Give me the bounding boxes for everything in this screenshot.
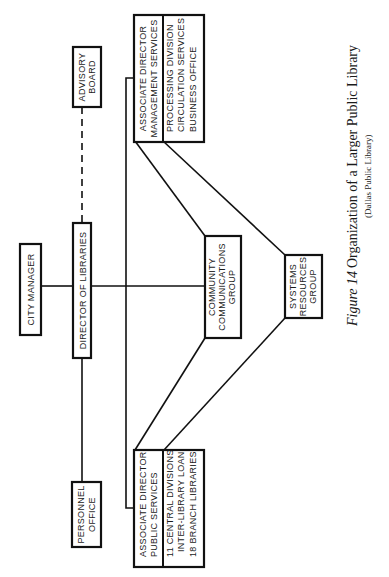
advisory-board-line-1: ADVISORY — [77, 53, 87, 102]
node-systems-resources: SYSTEMS RESOURCES GROUP — [285, 255, 322, 318]
personnel-office-line-2: OFFICE — [87, 497, 97, 532]
public-unit-3: 18 BRANCH LIBRARIES — [188, 451, 198, 557]
node-associate-director-public: ASSOCIATE DIRECTOR PUBLIC SERVICES 11 CE… — [134, 449, 204, 567]
node-community-communications: COMMUNITY COMMUNICATIONS GROUP — [205, 236, 241, 338]
node-advisory-board: ADVISORY BOARD — [73, 47, 101, 107]
edge-trunk-associates — [126, 78, 134, 508]
figure-title: Organization of a Larger Public Library — [345, 45, 360, 268]
public-unit-1: 11 CENTRAL DIVISIONS — [165, 449, 175, 557]
figure-label: Figure 14 — [345, 271, 360, 327]
edge-management-community — [135, 141, 205, 236]
management-title-line-2: MANAGEMENT SERVICES — [149, 20, 159, 138]
personnel-office-line-1: PERSONNEL — [76, 485, 86, 543]
management-unit-1: PROCESSING DIVISION — [165, 24, 175, 132]
node-associate-director-management: ASSOCIATE DIRECTOR MANAGEMENT SERVICES P… — [134, 15, 204, 142]
community-line-1: COMMUNITY — [207, 258, 217, 316]
management-title-line-1: ASSOCIATE DIRECTOR — [138, 26, 148, 132]
node-personnel-office: PERSONNEL OFFICE — [72, 482, 101, 547]
community-line-3: GROUP — [227, 270, 237, 305]
edge-public-community — [135, 338, 205, 450]
systems-line-3: GROUP — [308, 269, 318, 304]
figure-subtitle: (Dallas Public Library) — [363, 135, 373, 218]
advisory-board-line-2: BOARD — [87, 60, 97, 94]
management-unit-2: CIRCULATION SERVICES — [176, 18, 186, 132]
director-label: DIRECTOR OF LIBRARIES — [78, 232, 88, 350]
city-manager-label: CITY MANAGER — [26, 253, 36, 325]
systems-line-1: SYSTEMS — [288, 264, 298, 309]
systems-line-2: RESOURCES — [298, 257, 308, 317]
org-chart: CITY MANAGER DIRECTOR OF LIBRARIES ADVIS… — [0, 0, 389, 577]
public-title-line-1: ASSOCIATE DIRECTOR — [138, 451, 148, 557]
public-unit-2: INTER-LIBRARY LOAN — [176, 451, 186, 552]
figure-caption: Figure 14 Organization of a Larger Publi… — [345, 45, 373, 327]
node-city-manager: CITY MANAGER — [20, 244, 41, 335]
management-unit-3: BUSINESS OFFICE — [188, 46, 198, 132]
node-director-of-libraries: DIRECTOR OF LIBRARIES — [73, 223, 91, 358]
community-line-2: COMMUNICATIONS — [217, 243, 227, 331]
public-title-line-2: PUBLIC SERVICES — [149, 472, 159, 557]
